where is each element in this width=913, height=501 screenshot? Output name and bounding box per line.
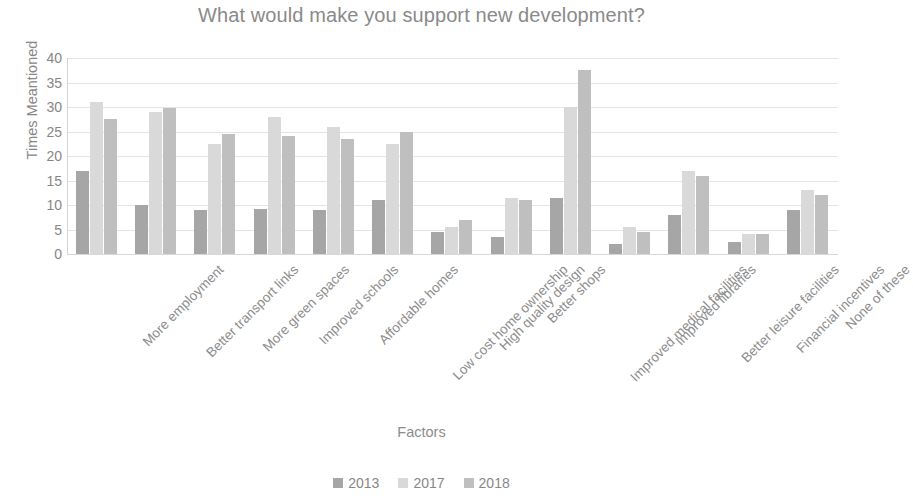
- legend-item[interactable]: 2018: [464, 475, 510, 491]
- y-axis-tick-labels: 4035302520151050: [28, 58, 62, 254]
- bar: [222, 134, 235, 254]
- bar: [459, 220, 472, 254]
- bar-group: [483, 58, 542, 254]
- bar: [372, 200, 385, 254]
- bar: [742, 234, 755, 254]
- legend-swatch-icon: [398, 478, 408, 488]
- legend-label: 2018: [479, 475, 510, 491]
- bar: [505, 198, 518, 254]
- bar: [313, 210, 326, 254]
- bar: [163, 108, 176, 254]
- bar: [76, 171, 89, 254]
- bar: [801, 190, 814, 254]
- gridline: [68, 254, 838, 255]
- bar: [254, 209, 267, 254]
- bar: [194, 210, 207, 254]
- y-axis-tick-label: 15: [34, 174, 62, 188]
- bar: [578, 70, 591, 254]
- bar-group: [601, 58, 660, 254]
- x-axis-tick-label: More employment: [139, 262, 226, 349]
- bar: [637, 232, 650, 254]
- y-axis-tick-label: 25: [34, 125, 62, 139]
- legend-swatch-icon: [464, 478, 474, 488]
- bar-group: [423, 58, 482, 254]
- bar: [815, 195, 828, 254]
- bar: [550, 198, 563, 254]
- bar: [445, 227, 458, 254]
- bar: [268, 117, 281, 254]
- bar-group: [542, 58, 601, 254]
- x-axis-tick-label: More green spaces: [260, 262, 352, 354]
- bar: [400, 132, 413, 255]
- x-axis-tick-labels: More employmentBetter transport linksMor…: [0, 258, 843, 378]
- y-axis-tick-label: 35: [34, 76, 62, 90]
- legend-label: 2017: [413, 475, 444, 491]
- bar: [756, 234, 769, 254]
- x-axis-tick-label: Improved libraries: [672, 262, 758, 348]
- bar: [386, 144, 399, 254]
- x-axis-tick-label: High quality design: [496, 262, 587, 353]
- bar-group: [779, 58, 838, 254]
- x-axis-title: Factors: [0, 424, 843, 440]
- bar-group: [246, 58, 305, 254]
- bar: [208, 144, 221, 254]
- y-axis-tick-label: 20: [34, 149, 62, 163]
- bar: [668, 215, 681, 254]
- y-axis-tick-label: 40: [34, 51, 62, 65]
- bar: [104, 119, 117, 254]
- bar-group: [364, 58, 423, 254]
- plot-area: [68, 58, 838, 254]
- bar: [682, 171, 695, 254]
- y-axis-tick-label: 30: [34, 100, 62, 114]
- y-axis-tick-label: 5: [34, 223, 62, 237]
- bar-group: [68, 58, 127, 254]
- legend-item[interactable]: 2013: [333, 475, 379, 491]
- bar: [728, 242, 741, 254]
- bar: [341, 139, 354, 254]
- bar: [431, 232, 444, 254]
- bar-group: [660, 58, 719, 254]
- legend-label: 2013: [348, 475, 379, 491]
- bar: [149, 112, 162, 254]
- bar: [696, 176, 709, 254]
- bar-group: [305, 58, 364, 254]
- bar-group: [127, 58, 186, 254]
- chart-title: What would make you support new developm…: [0, 4, 843, 27]
- bar: [90, 102, 103, 254]
- bar: [135, 205, 148, 254]
- bar: [564, 107, 577, 254]
- legend-swatch-icon: [333, 478, 343, 488]
- bar-group: [720, 58, 779, 254]
- bar: [282, 136, 295, 254]
- bar: [327, 127, 340, 254]
- chart-legend: 201320172018: [0, 475, 843, 491]
- bar: [609, 244, 622, 254]
- bar: [623, 227, 636, 254]
- bar: [491, 237, 504, 254]
- bar: [519, 200, 532, 254]
- bar: [787, 210, 800, 254]
- y-axis-tick-label: 10: [34, 198, 62, 212]
- bar-group: [186, 58, 245, 254]
- legend-item[interactable]: 2017: [398, 475, 444, 491]
